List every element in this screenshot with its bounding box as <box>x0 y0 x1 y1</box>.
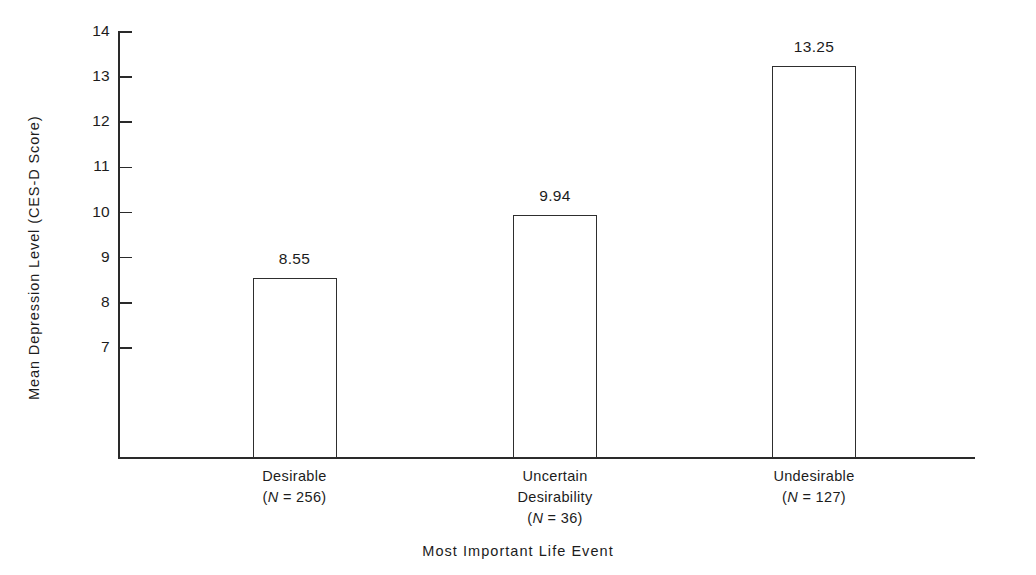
y-tick-11 <box>119 167 132 169</box>
y-tick-label-9: 9 <box>66 248 110 266</box>
sample-size-label-3: (N = 127) <box>704 487 924 508</box>
bar-value-label-3: 13.25 <box>754 38 874 56</box>
y-tick-label-11: 11 <box>66 157 110 175</box>
y-tick-13 <box>119 76 132 78</box>
category-label-line: Undesirable <box>704 466 924 487</box>
y-tick-7 <box>119 347 132 349</box>
y-axis-title: Mean Depression Level (CES-D Score) <box>26 0 52 400</box>
category-label-line: Desirable <box>185 466 405 487</box>
y-tick-10 <box>119 212 132 214</box>
y-tick-12 <box>119 121 132 123</box>
sample-size-label-1: (N = 256) <box>185 487 405 508</box>
y-tick-label-12: 12 <box>66 112 110 130</box>
x-axis-title: Most Important Life Event <box>0 543 1036 559</box>
y-tick-label-14: 14 <box>66 22 110 40</box>
y-tick-label-7: 7 <box>66 338 110 356</box>
bar-2 <box>513 215 597 458</box>
y-tick-label-10: 10 <box>66 203 110 221</box>
y-tick-14 <box>119 31 132 33</box>
sample-size-label-2: (N = 36) <box>445 508 665 529</box>
category-label-line: Uncertain <box>445 466 665 487</box>
bar-3 <box>772 66 856 458</box>
bar-1 <box>253 278 337 458</box>
bar-value-label-1: 8.55 <box>235 250 355 268</box>
n-symbol: N <box>532 510 543 526</box>
n-symbol: N <box>268 489 279 505</box>
y-tick-8 <box>119 302 132 304</box>
y-tick-label-8: 8 <box>66 293 110 311</box>
bar-value-label-2: 9.94 <box>495 187 615 205</box>
category-label-line: Desirability <box>445 487 665 508</box>
y-axis-line <box>118 31 120 459</box>
category-label-1: Desirable(N = 256) <box>185 466 405 508</box>
category-label-3: Undesirable(N = 127) <box>704 466 924 508</box>
category-label-2: UncertainDesirability(N = 36) <box>445 466 665 529</box>
n-symbol: N <box>787 489 798 505</box>
bar-chart-figure: Mean Depression Level (CES-D Score) 7891… <box>0 0 1036 575</box>
y-tick-9 <box>119 257 132 259</box>
y-tick-label-13: 13 <box>66 67 110 85</box>
